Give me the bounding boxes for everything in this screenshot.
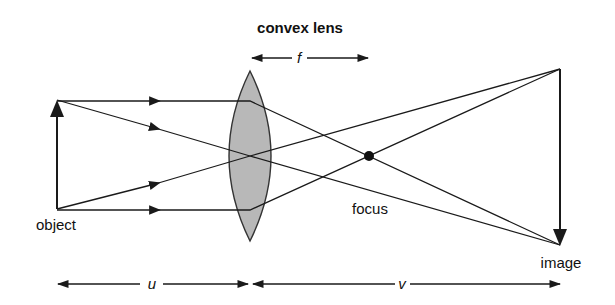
convex-lens-ray-diagram: convex lens f object image focus [0,0,615,305]
image-arrow [553,69,567,246]
ray-top-central [57,100,155,128]
image-label: image [541,254,582,271]
focal-length-label: f [297,49,303,66]
object-distance-dimension: u [58,275,248,292]
object-label: object [36,216,77,233]
light-rays [57,69,560,245]
focal-length-dimension: f [252,49,368,66]
object-distance-label: u [148,275,157,292]
ray-bottom-central [57,184,155,209]
focus-point [364,151,374,161]
image-distance-label: v [398,275,407,292]
focus-label: focus [352,200,388,217]
lens-title-label: convex lens [257,19,343,36]
object-arrowhead-icon [50,100,64,117]
object-arrow [50,100,64,209]
image-distance-dimension: v [253,275,560,292]
